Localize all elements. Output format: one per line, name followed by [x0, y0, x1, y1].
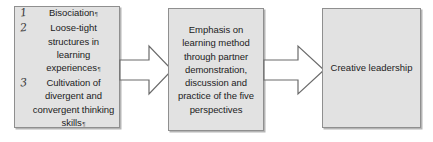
- process-box-outcome: Creative leadership: [322, 8, 421, 128]
- list-item-text: Loose-tight structures in learning exper…: [32, 21, 115, 76]
- list-item: 2 Loose-tight structures in learning exp…: [19, 21, 115, 76]
- paragraph-mark-icon: ¶: [94, 11, 98, 17]
- process-box-inputs: 1 Bisociation¶ 2 Loose-tight structures …: [14, 6, 120, 128]
- flow-arrow-icon: [118, 44, 174, 96]
- list-item-number: 3: [18, 75, 32, 89]
- flow-arrow-icon: [262, 44, 326, 96]
- list-item: 1 Bisociation¶: [19, 6, 115, 21]
- paragraph-mark-icon: ¶: [97, 66, 101, 72]
- process-box-outcome-text: Creative leadership: [331, 61, 413, 74]
- list-item-text: Bisociation¶: [32, 6, 115, 21]
- process-box-method: Emphasis on learning method through part…: [168, 8, 264, 131]
- list-item: 3 Cultivation of divergent and convergen…: [19, 76, 115, 131]
- list-item-text: Cultivation of divergent and convergent …: [32, 76, 115, 131]
- numbered-list: 1 Bisociation¶ 2 Loose-tight structures …: [15, 3, 119, 131]
- process-box-method-text: Emphasis on learning method through part…: [169, 23, 263, 116]
- paragraph-mark-icon: ¶: [82, 121, 86, 127]
- list-item-number: 1: [18, 5, 32, 19]
- list-item-number: 2: [18, 21, 32, 35]
- diagram-canvas: 1 Bisociation¶ 2 Loose-tight structures …: [0, 0, 433, 142]
